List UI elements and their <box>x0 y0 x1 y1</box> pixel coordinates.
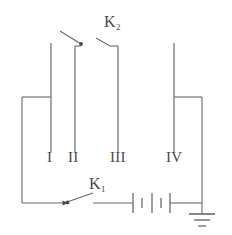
switch-k1-label-subscript: 1 <box>101 184 106 194</box>
electrodes-group <box>51 43 174 152</box>
left-wire-group <box>22 97 67 203</box>
switch-k1-label-letter: K <box>89 175 101 192</box>
circuit-diagram-figure: I II III IV K2 K1 <box>0 0 232 235</box>
switch-k1-pivot-dot <box>66 201 70 205</box>
switch-k2-label: K2 <box>104 14 120 30</box>
switch-k1-group[interactable] <box>63 193 134 205</box>
ground-symbol-group <box>189 214 215 226</box>
switch-k2-group[interactable] <box>60 31 118 46</box>
switch-k1-label: K1 <box>89 176 105 192</box>
switch-k2-label-subscript: 2 <box>116 22 121 32</box>
switch-k2-label-letter: K <box>104 13 116 30</box>
battery-group <box>133 193 202 213</box>
electrode-label-2: II <box>68 150 79 165</box>
switch-k1-lever[interactable] <box>67 193 93 202</box>
electrode-label-1: I <box>47 150 52 165</box>
switch-k2-contact-stub <box>96 38 110 46</box>
switch-k2-lever[interactable] <box>60 31 81 44</box>
circuit-schematic-svg <box>0 0 232 235</box>
electrode-label-4: IV <box>166 150 182 165</box>
switch-k2-pivot-dot <box>79 42 83 46</box>
electrode-label-3: III <box>110 150 126 165</box>
